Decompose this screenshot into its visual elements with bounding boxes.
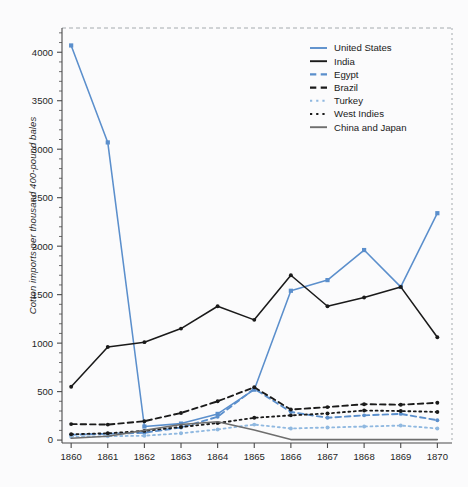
data-point	[252, 416, 256, 420]
data-point	[216, 304, 220, 308]
data-point	[106, 423, 110, 427]
data-point	[326, 304, 330, 308]
chart-legend: United StatesIndiaEgyptBrazilTurkeyWest …	[310, 42, 407, 132]
series-line	[71, 45, 437, 426]
data-point	[69, 422, 73, 426]
y-tick-label: 3500	[32, 95, 53, 106]
data-point	[69, 432, 73, 436]
legend-label: Brazil	[334, 82, 358, 93]
y-tick-label: 1500	[32, 289, 53, 300]
y-tick-label: 0	[48, 434, 53, 445]
data-point	[142, 424, 146, 428]
x-tick-label: 1865	[244, 451, 265, 462]
legend-label: India	[334, 56, 355, 67]
data-point	[435, 211, 439, 215]
y-tick-label: 500	[37, 386, 53, 397]
y-tick-label: 2500	[32, 192, 53, 203]
y-tick-label: 2000	[32, 241, 53, 252]
data-point	[362, 425, 366, 429]
data-point	[216, 415, 220, 419]
x-tick-label: 1868	[354, 451, 375, 462]
data-point	[362, 409, 366, 413]
data-point	[362, 402, 366, 406]
data-point	[435, 401, 439, 405]
series-united-states	[69, 43, 439, 428]
chart-figure: Cotton imports per thousand 400-pound ba…	[0, 0, 468, 487]
data-point	[362, 248, 366, 252]
data-point	[326, 405, 330, 409]
legend-label: West Indies	[334, 108, 384, 119]
data-point	[435, 335, 439, 339]
data-point	[326, 411, 330, 415]
data-point	[69, 43, 73, 47]
legend-label: United States	[334, 42, 392, 53]
data-point	[179, 327, 183, 331]
series-india	[69, 273, 439, 388]
x-tick-label: 1869	[390, 451, 411, 462]
y-tick-label: 1000	[32, 338, 53, 349]
data-point	[326, 426, 330, 430]
x-tick-label: 1864	[207, 451, 228, 462]
legend-label: Turkey	[334, 95, 363, 106]
data-point	[142, 434, 146, 438]
data-point	[179, 411, 183, 415]
data-point	[289, 289, 293, 293]
data-point	[252, 385, 256, 389]
line-chart: 0500100015002000250030003500400018601861…	[0, 0, 468, 487]
data-point	[362, 296, 366, 300]
data-point	[326, 416, 330, 420]
data-point	[399, 403, 403, 407]
data-point	[289, 427, 293, 431]
data-point	[289, 273, 293, 277]
data-point	[142, 419, 146, 423]
data-point	[435, 427, 439, 431]
x-tick-label: 1866	[280, 451, 301, 462]
legend-label: Egypt	[334, 69, 359, 80]
data-point	[435, 418, 439, 422]
x-tick-label: 1861	[97, 451, 118, 462]
data-point	[179, 425, 183, 429]
data-point	[179, 431, 183, 435]
y-tick-label: 4000	[32, 47, 53, 58]
data-point	[435, 410, 439, 414]
data-point	[106, 431, 110, 435]
data-point	[399, 285, 403, 289]
data-point	[252, 423, 256, 427]
x-tick-label: 1863	[170, 451, 191, 462]
y-tick-label: 3000	[32, 144, 53, 155]
series-line	[71, 389, 437, 435]
data-point	[362, 413, 366, 417]
series-line	[71, 275, 437, 387]
x-tick-label: 1860	[61, 451, 82, 462]
data-point	[399, 409, 403, 413]
data-point	[216, 427, 220, 431]
x-tick-label: 1870	[427, 451, 448, 462]
data-point	[106, 345, 110, 349]
data-point	[106, 140, 110, 144]
data-point	[216, 399, 220, 403]
x-tick-label: 1862	[134, 451, 155, 462]
data-point	[289, 413, 293, 417]
series-west-indies	[69, 409, 439, 437]
data-point	[69, 385, 73, 389]
x-tick-label: 1867	[317, 451, 338, 462]
data-point	[325, 278, 329, 282]
data-point	[399, 424, 403, 428]
data-point	[142, 340, 146, 344]
legend-label: China and Japan	[334, 122, 407, 133]
data-point	[289, 408, 293, 412]
data-point	[252, 318, 256, 322]
